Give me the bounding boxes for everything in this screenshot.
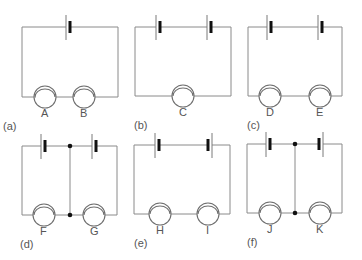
panel-caption-d: (d): [20, 238, 33, 250]
lamp-g: [83, 204, 105, 226]
lamp-a: [34, 86, 56, 108]
lamp-label-h: H: [156, 224, 164, 236]
panel-caption-f: (f): [247, 236, 257, 248]
panel-b: C (b): [134, 15, 231, 131]
panel-f: J K (f): [247, 132, 342, 248]
junction-dot-top: [293, 142, 298, 147]
lamp-label-e: E: [316, 106, 323, 118]
lamp-label-g: G: [90, 225, 99, 237]
wire: [248, 27, 342, 96]
panel-a: A B (a): [3, 15, 118, 132]
wire: [22, 146, 117, 215]
wire: [247, 144, 342, 213]
junction-dot-bottom: [293, 211, 298, 216]
lamp-c: [172, 85, 194, 107]
panel-e: H I (e): [134, 133, 230, 249]
panel-caption-e: (e): [134, 237, 147, 249]
lamp-f: [33, 204, 55, 226]
junction-dot-top: [68, 144, 73, 149]
lamp-label-f: F: [40, 225, 47, 237]
lamp-label-i: I: [206, 224, 209, 236]
lamp-e: [309, 85, 331, 107]
panel-c: D E (c): [247, 15, 342, 131]
wire: [22, 27, 118, 97]
wire: [134, 145, 230, 214]
panel-caption-a: (a): [3, 120, 16, 132]
lamp-k: [309, 202, 331, 224]
lamp-label-j: J: [267, 223, 273, 235]
panel-caption-c: (c): [247, 119, 260, 131]
lamp-label-k: K: [316, 223, 324, 235]
lamp-label-a: A: [41, 107, 49, 119]
lamp-h: [149, 203, 171, 225]
lamp-i: [197, 203, 219, 225]
circuit-diagram-figure: A B (a) C (b) D E (c): [0, 0, 362, 260]
lamp-b: [73, 86, 95, 108]
panel-caption-b: (b): [134, 119, 147, 131]
panel-d: F G (d): [20, 134, 117, 250]
lamp-label-c: C: [179, 106, 187, 118]
lamp-label-d: D: [266, 106, 274, 118]
lamp-j: [259, 202, 281, 224]
junction-dot-bottom: [68, 213, 73, 218]
lamp-label-b: B: [80, 107, 87, 119]
lamp-d: [259, 85, 281, 107]
